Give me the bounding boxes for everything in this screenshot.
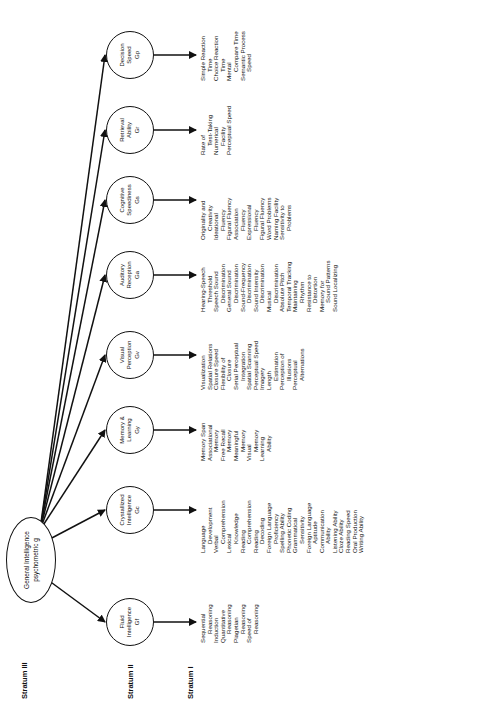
- factor-l1: Fluid: [119, 616, 127, 629]
- factor-l2: Learning: [126, 418, 134, 441]
- cattell-horn-carroll-diagram: Stratum III Stratum II Stratum I General…: [0, 0, 488, 703]
- ability-item: Choice Reaction: [213, 31, 220, 81]
- factor-node-decision: DecisionSpeedGp: [106, 31, 154, 79]
- factor-l1: Decision: [119, 44, 127, 67]
- ability-item: Speed: [246, 31, 253, 81]
- factor-code: Gr: [134, 127, 142, 134]
- ability-item: Writing Ability: [358, 500, 365, 553]
- stratum-iii-label: Stratum III: [20, 662, 29, 699]
- ability-item: Simple Reaction: [200, 31, 207, 81]
- ability-list-decision: Simple ReactionTimeChoice ReactionTimeMe…: [200, 31, 253, 81]
- factor-code: Gy: [134, 426, 142, 434]
- factor-code: Gp: [134, 51, 142, 59]
- factor-l1: Visual: [119, 347, 127, 363]
- ability-item: Perceptual Speed: [226, 106, 233, 155]
- ability-list-auditory: Hearing-SpeechThresholdSpeech SoundDiscr…: [200, 260, 338, 312]
- ability-list-fluid: SequentialReasoningInductionQuantitative…: [200, 604, 259, 643]
- factor-l1: Auditory: [119, 264, 127, 286]
- factor-l1: Crystallized: [119, 495, 127, 526]
- factor-l2: Speediness: [126, 184, 134, 215]
- factor-code: Gc: [134, 506, 142, 514]
- stratum-ii-label: Stratum II: [126, 664, 135, 699]
- ability-item: Ability: [266, 422, 273, 461]
- factor-l2: Ability: [126, 122, 134, 138]
- ability-list-memory: Memory SpanAssociationalMemoryFree Recal…: [200, 422, 273, 461]
- factor-l2: Intelligence: [126, 495, 134, 525]
- factor-l1: Cognitive: [119, 188, 127, 213]
- ability-item: Problems: [286, 197, 293, 240]
- ability-list-crystallized: LanguageDevelopmentVerbalComprehensionLe…: [200, 500, 365, 553]
- ability-item: Reasoning: [253, 604, 260, 643]
- factor-l1: Retrieval: [119, 118, 127, 142]
- factor-l2: Intelligence: [126, 607, 134, 637]
- ability-list-visual: VisualizationSpatial RelationsClosure Sp…: [200, 341, 306, 390]
- factor-l1: Memory &: [119, 416, 127, 443]
- factor-code: Gs: [134, 196, 142, 204]
- factor-code: Gv: [134, 351, 142, 359]
- factor-node-memory: Memory &LearningGy: [106, 406, 154, 454]
- stratum-i-label: Stratum I: [186, 666, 195, 699]
- general-intelligence-node: General Intelligence psychometric g: [6, 517, 56, 603]
- factor-node-auditory: AuditoryReceptionGa: [106, 251, 154, 299]
- ability-item: Alternations: [299, 341, 306, 390]
- factor-node-crystallized: CrystallizedIntelligenceGc: [106, 486, 154, 534]
- factor-code: Gf: [134, 619, 142, 625]
- factor-l2: Perception: [126, 341, 134, 370]
- general-line2: psychometric g: [31, 538, 40, 582]
- factor-l2: Reception: [126, 261, 134, 288]
- factor-node-fluid: FluidIntelligenceGf: [106, 598, 154, 646]
- ability-item: Sound Localizing: [332, 260, 339, 312]
- general-line1: General Intelligence: [22, 531, 31, 589]
- factor-l2: Speed: [126, 46, 134, 63]
- factor-code: Ga: [134, 271, 142, 279]
- factor-node-visual: VisualPerceptionGv: [106, 331, 154, 379]
- factor-node-retrieval: RetrievalAbilityGr: [106, 106, 154, 154]
- ability-list-cognitive: Originality andCreativityIdeationalFluen…: [200, 197, 292, 240]
- factor-node-cognitive: CognitiveSpeedinessGs: [106, 176, 154, 224]
- ability-list-retrieval: Rate ofTest-TakingNumericalFacilityPerce…: [200, 106, 233, 155]
